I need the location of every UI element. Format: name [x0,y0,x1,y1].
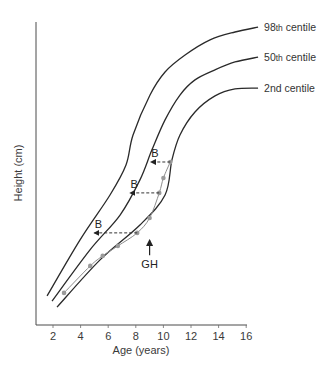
centile-label-2nd: 2nd centile [264,82,315,94]
x-tick-label: 4 [78,330,84,342]
bone-age-label: B [131,178,138,190]
bone-age-arrows: BBB [94,147,170,233]
bone-age-label: B [151,147,158,159]
x-tick-label: 12 [185,330,197,342]
centile-curves: 98th centile50th centile2nd centile [47,21,316,307]
x-tick-label: 16 [240,330,252,342]
x-tick-label: 14 [212,330,224,342]
bone-age-label: B [95,218,102,230]
gh-marker: GH [141,240,158,270]
patient-point [62,291,67,296]
x-axis-title: Age (years) [113,344,170,356]
x-tick-label: 8 [133,330,139,342]
patient-point [116,244,121,249]
patient-point [161,176,166,181]
x-tick-label: 10 [157,330,169,342]
growth-chart: 246810121416 Age (years) Height (cm) 98t… [0,0,323,372]
patient-point [100,254,105,259]
patient-point [88,264,93,269]
centile-label-50th: 50th centile [264,51,316,63]
x-tick-label: 6 [105,330,111,342]
y-axis-title: Height (cm) [12,145,24,202]
gh-label: GH [141,258,158,270]
centile-label-98th: 98th centile [264,21,316,33]
patient-series [62,160,173,295]
x-ticks: 246810121416 [50,325,252,342]
patient-point [147,216,152,221]
x-tick-label: 2 [50,330,56,342]
